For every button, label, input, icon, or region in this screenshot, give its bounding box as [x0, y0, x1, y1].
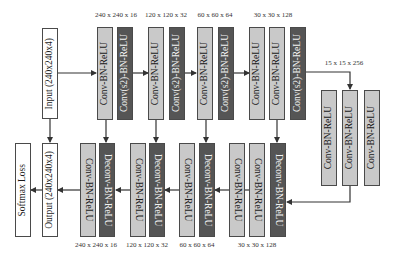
decoder-deconv-block: Deconv-BN-ReLU — [270, 143, 286, 237]
softmax-loss-block: Softmax Loss — [15, 143, 31, 237]
decoder-dim-label: 30 x 30 x 128 — [238, 241, 277, 249]
block-label: Deconv-BN-ReLU — [152, 154, 162, 226]
block-label: Conv(s2)-BN-ReLU — [221, 34, 231, 112]
block-label: Conv-BN-ReLU — [151, 42, 161, 105]
block-label: Deconv-BN-ReLU — [273, 154, 283, 226]
decoder-deconv-block: Deconv-BN-ReLU — [149, 143, 165, 237]
block-label: Conv-BN-ReLU — [100, 42, 110, 105]
input-block-label: Input (240x240x4) — [45, 38, 55, 110]
encoder-dim-label: 60 x 60 x 64 — [198, 11, 233, 19]
block-label: Conv(s2)-BN-ReLU — [293, 34, 303, 112]
block-label: Conv-BN-ReLU — [324, 106, 334, 169]
block-label: Conv(s2)-BN-ReLU — [120, 34, 130, 112]
block-label: Conv-BN-ReLU — [367, 106, 377, 169]
decoder-conv-block: Conv-BN-ReLU — [249, 143, 265, 237]
input-block: Input (240x240x4) — [42, 28, 58, 119]
decoder-dim-label: 120 x 120 x 32 — [126, 241, 168, 249]
encoder-conv-block: Conv-BN-ReLU — [249, 27, 265, 120]
encoder-conv-block: Conv-BN-ReLU — [148, 27, 164, 120]
block-label: Conv(s2)-BN-ReLU — [172, 34, 182, 112]
decoder-conv-block: Conv-BN-ReLU — [179, 143, 195, 237]
encoder-dim-label: 240 x 240 x 16 — [95, 11, 137, 19]
output-block: Output (240x240x4) — [42, 143, 58, 237]
block-label: Conv-BN-ReLU — [83, 158, 93, 221]
block-label: Conv-BN-ReLU — [182, 158, 192, 221]
encoder-downsample-block: Conv(s2)-BN-ReLU — [117, 27, 133, 120]
block-label: Conv-BN-ReLU — [252, 158, 262, 221]
decoder-conv-block: Conv-BN-ReLU — [130, 143, 146, 237]
unet-architecture-diagram: 240 x 240 x 16 120 x 120 x 32 60 x 60 x … — [0, 0, 395, 262]
decoder-conv-block: Conv-BN-ReLU — [229, 143, 245, 237]
encoder-conv-block: Conv-BN-ReLU — [97, 27, 113, 120]
decoder-dim-label: 240 x 240 x 16 — [75, 241, 117, 249]
encoder-conv-block: Conv-BN-ReLU — [269, 27, 285, 120]
decoder-conv-block: Conv-BN-ReLU — [80, 143, 96, 237]
output-block-label: Output (240x240x4) — [45, 151, 55, 229]
block-label: Conv-BN-ReLU — [200, 42, 210, 105]
softmax-loss-label: Softmax Loss — [18, 164, 28, 217]
decoder-deconv-block: Deconv-BN-ReLU — [99, 143, 115, 237]
encoder-downsample-block: Conv(s2)-BN-ReLU — [218, 27, 234, 120]
bottleneck-dim-label: 15 x 15 x 256 — [325, 59, 364, 67]
block-label: Conv-BN-ReLU — [133, 158, 143, 221]
encoder-downsample-block: Conv(s2)-BN-ReLU — [290, 27, 306, 120]
bottleneck-conv-block: Conv-BN-ReLU — [342, 90, 358, 186]
encoder-conv-block: Conv-BN-ReLU — [197, 27, 213, 120]
bottleneck-conv-block: Conv-BN-ReLU — [364, 90, 380, 186]
block-label: Deconv-BN-ReLU — [102, 154, 112, 226]
block-label: Deconv-BN-ReLU — [202, 154, 212, 226]
bottleneck-conv-block: Conv-BN-ReLU — [321, 90, 337, 186]
block-label: Conv-BN-ReLU — [252, 42, 262, 105]
encoder-downsample-block: Conv(s2)-BN-ReLU — [169, 27, 185, 120]
block-label: Conv-BN-ReLU — [232, 158, 242, 221]
block-label: Conv-BN-ReLU — [345, 106, 355, 169]
encoder-dim-label: 30 x 30 x 128 — [254, 11, 293, 19]
encoder-dim-label: 120 x 120 x 32 — [145, 11, 187, 19]
decoder-deconv-block: Deconv-BN-ReLU — [199, 143, 215, 237]
block-label: Conv-BN-ReLU — [272, 42, 282, 105]
decoder-dim-label: 60 x 60 x 64 — [180, 241, 215, 249]
